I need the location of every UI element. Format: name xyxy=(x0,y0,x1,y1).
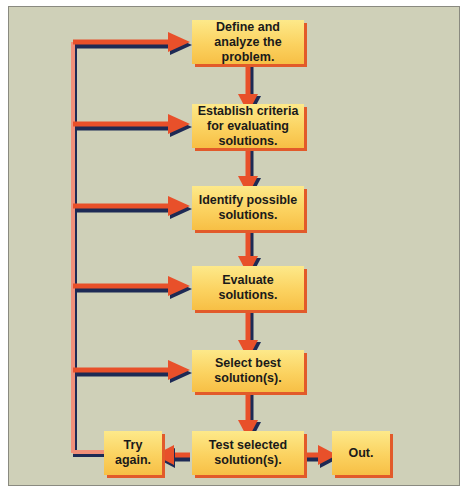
feedback-arrows xyxy=(73,32,192,383)
step-identify: Identify possible solutions. xyxy=(192,186,304,230)
step-test: Test selected solution(s). xyxy=(192,431,304,475)
step-select: Select best solution(s). xyxy=(192,350,304,392)
step-criteria: Establish criteria for evaluating soluti… xyxy=(192,104,304,148)
flow-connectors xyxy=(0,0,468,493)
step-out: Out. xyxy=(332,431,390,475)
step-try-again: Try again. xyxy=(104,431,162,475)
step-define: Define and analyze the problem. xyxy=(192,20,304,64)
step-evaluate: Evaluate solutions. xyxy=(192,266,304,310)
